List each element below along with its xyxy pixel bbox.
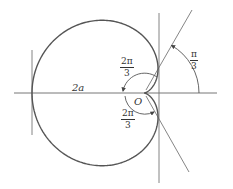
- label-2a: 2a: [72, 83, 84, 93]
- angle-right-denominator: 3: [191, 61, 197, 71]
- label-angle-right: π 3: [190, 50, 198, 71]
- angle-top-numerator: 2π: [120, 57, 134, 68]
- diagram-svg: [0, 0, 233, 189]
- label-angle-top: 2π 3: [120, 57, 134, 78]
- angle-top-denominator: 3: [124, 68, 130, 78]
- angle-right-numerator: π: [190, 50, 198, 61]
- label-origin: O: [134, 97, 142, 107]
- lower-slanted-tangent: [146, 96, 189, 172]
- angle-bottom-numerator: 2π: [121, 109, 135, 120]
- label-angle-bottom: 2π 3: [121, 109, 135, 130]
- cardioid-diagram: 2a O 2π 3 2π 3 π 3: [0, 0, 233, 189]
- angle-bottom-denominator: 3: [125, 120, 131, 130]
